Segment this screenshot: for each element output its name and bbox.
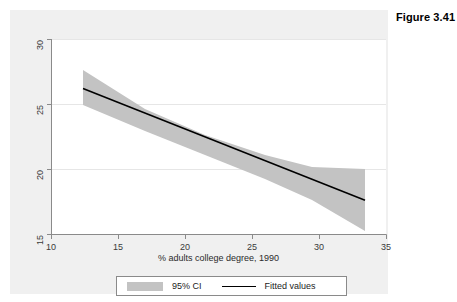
legend-entry-ci: 95% CI bbox=[117, 277, 202, 295]
graph-panel: 30 25 20 15 10 15 20 25 30 35 % adults c… bbox=[10, 10, 388, 294]
x-axis-title: % adults college degree, 1990 bbox=[51, 253, 386, 263]
y-tick-label-25: 25 bbox=[35, 105, 45, 125]
legend-line-swatch-icon bbox=[222, 286, 256, 287]
x-tick-label-15: 15 bbox=[106, 242, 130, 252]
legend-label-fitted: Fitted values bbox=[265, 281, 316, 291]
x-tick-label-20: 20 bbox=[173, 242, 197, 252]
legend-label-ci: 95% CI bbox=[172, 281, 202, 291]
x-tick-label-25: 25 bbox=[240, 242, 264, 252]
confidence-band-95ci bbox=[83, 70, 365, 231]
legend-entry-fitted: Fitted values bbox=[202, 277, 316, 295]
chart-legend: 95% CI Fitted values bbox=[116, 276, 347, 296]
x-tick-label-35: 35 bbox=[374, 242, 398, 252]
y-axis bbox=[43, 34, 53, 240]
fitted-values-line bbox=[83, 88, 365, 200]
figure-caption: Figure 3.41 bbox=[396, 11, 455, 23]
x-tick-label-10: 10 bbox=[39, 242, 63, 252]
plot-svg bbox=[51, 39, 386, 234]
plot-area bbox=[51, 39, 386, 234]
legend-band-swatch-icon bbox=[127, 282, 163, 291]
x-tick-label-30: 30 bbox=[307, 242, 331, 252]
y-tick-label-30: 30 bbox=[35, 40, 45, 60]
x-axis bbox=[41, 234, 396, 244]
figure-container: Figure 3.41 bbox=[0, 0, 457, 302]
y-tick-label-20: 20 bbox=[35, 170, 45, 190]
